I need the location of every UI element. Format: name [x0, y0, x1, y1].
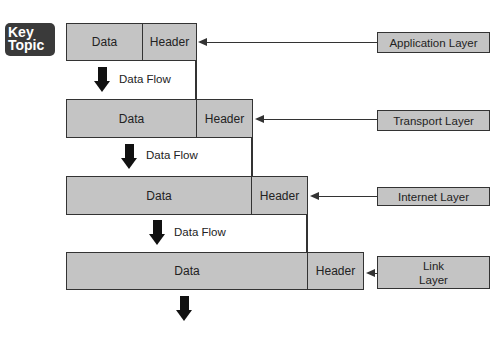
down-arrow-icon [121, 144, 138, 170]
connector-line [195, 60, 197, 100]
pdu-transport: Data Header [66, 99, 253, 138]
data-flow-label: Data Flow [174, 226, 226, 238]
data-cell: Data [67, 253, 307, 289]
layer-label: Transport Layer [393, 114, 474, 128]
pointer-line [205, 42, 377, 43]
arrow-left-icon [310, 192, 319, 200]
layer-internet: Internet Layer [377, 187, 490, 206]
header-cell: Header [251, 177, 307, 214]
layer-label: Internet Layer [398, 190, 469, 204]
arrow-left-icon [198, 38, 207, 46]
pointer-line [317, 196, 377, 197]
badge-line-2: Topic [8, 39, 52, 52]
connector-line [251, 137, 253, 177]
down-arrow-icon [176, 296, 193, 322]
layer-label-line-2: Layer [419, 273, 448, 287]
data-flow-label: Data Flow [119, 73, 171, 85]
connector-line [306, 214, 308, 253]
header-cell: Header [142, 24, 196, 60]
pointer-line [262, 119, 377, 120]
data-flow-label: Data Flow [146, 149, 198, 161]
layer-transport: Transport Layer [377, 110, 490, 131]
layer-application: Application Layer [377, 32, 490, 53]
key-topic-badge: Key Topic [5, 23, 55, 56]
data-cell: Data [67, 24, 142, 60]
layer-label: Application Layer [389, 36, 477, 50]
header-cell: Header [307, 253, 363, 289]
layer-link: Link Layer [377, 256, 490, 289]
pdu-application: Data Header [66, 23, 197, 61]
down-arrow-icon [94, 67, 111, 93]
arrow-left-icon [366, 269, 375, 277]
arrow-left-icon [255, 115, 264, 123]
header-cell: Header [196, 100, 252, 137]
layer-label-line-1: Link [423, 259, 444, 273]
pdu-internet: Data Header [66, 176, 308, 215]
data-cell: Data [67, 100, 196, 137]
data-cell: Data [67, 177, 251, 214]
pdu-link: Data Header [66, 252, 364, 290]
down-arrow-icon [149, 220, 166, 246]
